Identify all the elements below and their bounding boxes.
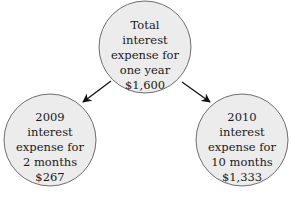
node-2009-line-4: 2 months: [23, 155, 77, 169]
node-2010-line-4: 10 months: [211, 155, 273, 169]
interest-expense-diagram: Total interest expense for one year $1,6…: [0, 0, 291, 199]
node-total-amount: $1,600: [125, 78, 165, 92]
node-2009-amount: $267: [35, 170, 64, 184]
node-2010-line-2: interest: [219, 125, 265, 139]
node-2010-line-3: expense for: [208, 140, 276, 154]
node-2010-amount: $1,333: [222, 170, 262, 184]
node-total-line-2: interest: [122, 33, 168, 47]
arrow-to-2009: [83, 81, 111, 102]
arrow-to-2010: [182, 82, 210, 102]
node-2009-line-3: expense for: [16, 140, 84, 154]
node-2009-line-2: interest: [27, 125, 73, 139]
node-2009-line-1: 2009: [35, 110, 64, 124]
node-2010-line-1: 2010: [227, 110, 256, 124]
node-2009-interest: 2009 interest expense for 2 months $267: [4, 94, 96, 186]
node-2010-interest: 2010 interest expense for 10 months $1,3…: [196, 94, 288, 186]
node-total-line-4: one year: [120, 63, 171, 77]
node-total-interest: Total interest expense for one year $1,6…: [99, 1, 191, 93]
node-total-line-3: expense for: [111, 48, 179, 62]
node-total-line-1: Total: [131, 18, 160, 32]
